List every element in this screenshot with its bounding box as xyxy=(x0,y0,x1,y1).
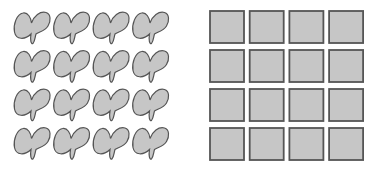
square-shape xyxy=(289,50,323,82)
square-shape xyxy=(210,50,244,82)
square-shape xyxy=(289,11,323,43)
square-shape xyxy=(329,11,363,43)
square-grid-panel xyxy=(0,0,373,170)
figure-canvas xyxy=(0,0,373,170)
square-shape xyxy=(210,11,244,43)
square-shape xyxy=(289,128,323,160)
square-shape xyxy=(250,89,284,121)
square-shape xyxy=(329,89,363,121)
square-shape xyxy=(329,50,363,82)
square-shape xyxy=(329,128,363,160)
square-shape xyxy=(250,50,284,82)
square-shape xyxy=(210,128,244,160)
square-shape xyxy=(289,89,323,121)
square-shape xyxy=(250,128,284,160)
square-shape xyxy=(210,89,244,121)
square-shape xyxy=(250,11,284,43)
